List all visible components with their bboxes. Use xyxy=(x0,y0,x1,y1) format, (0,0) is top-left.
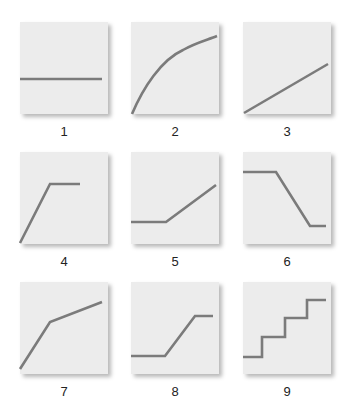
panel-5: 5 xyxy=(131,152,219,244)
graph-box xyxy=(20,152,108,244)
panel-7: 7 xyxy=(20,282,108,374)
line-graph-icon xyxy=(131,152,219,244)
line-graph-icon xyxy=(20,152,108,244)
panel-8: 8 xyxy=(131,282,219,374)
panel-2: 2 xyxy=(131,22,219,114)
line-graph-icon xyxy=(131,282,219,374)
line-graph-icon xyxy=(243,22,331,114)
line-graph-icon xyxy=(20,22,108,114)
panel-label: 3 xyxy=(243,124,331,139)
panel-label: 9 xyxy=(243,384,331,399)
panel-label: 8 xyxy=(131,384,219,399)
graph-box xyxy=(20,282,108,374)
panel-1: 1 xyxy=(20,22,108,114)
panel-label: 1 xyxy=(20,124,108,139)
graph-box xyxy=(243,22,331,114)
graph-box xyxy=(131,282,219,374)
panel-label: 5 xyxy=(131,254,219,269)
line-graph-icon xyxy=(243,282,331,374)
panel-label: 4 xyxy=(20,254,108,269)
panel-label: 2 xyxy=(131,124,219,139)
panel-9: 9 xyxy=(243,282,331,374)
graph-box xyxy=(243,282,331,374)
graph-box xyxy=(131,152,219,244)
line-graph-icon xyxy=(243,152,331,244)
line-graph-icon xyxy=(20,282,108,374)
panel-label: 6 xyxy=(243,254,331,269)
graph-box xyxy=(131,22,219,114)
line-graph-icon xyxy=(131,22,219,114)
panel-4: 4 xyxy=(20,152,108,244)
panel-6: 6 xyxy=(243,152,331,244)
panel-3: 3 xyxy=(243,22,331,114)
graph-box xyxy=(243,152,331,244)
graph-box xyxy=(20,22,108,114)
panel-label: 7 xyxy=(20,384,108,399)
